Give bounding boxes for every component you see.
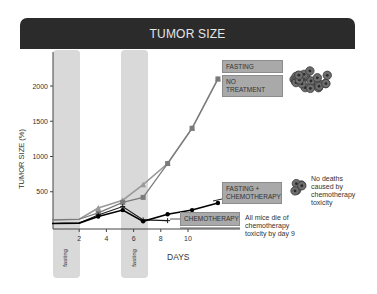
label-no-treatment-line2: TREATMENT <box>226 86 279 94</box>
x-tick-label: 10 <box>184 235 192 242</box>
x-tick-label: 8 <box>159 235 163 242</box>
note-no-deaths: No deaths caused by chemotherapy toxicit… <box>311 175 355 207</box>
note-all-mice-die: All mice die of chemotherapy toxicity by… <box>245 214 295 238</box>
note-all-die-line: toxicity by day 9 <box>245 230 295 238</box>
x-tick-label: 6 <box>132 235 136 242</box>
y-tick-label: 1000 <box>32 153 48 160</box>
note-all-die-line: chemotherapy <box>245 222 295 230</box>
x-axis-label: DAYS <box>167 253 190 261</box>
note-no-deaths-line: chemotherapy <box>311 191 355 199</box>
label-fasting-chemo-line2: CHEMOTHERAPY <box>226 193 278 201</box>
tumor-cells-small-icon <box>291 179 306 195</box>
note-no-deaths-line: toxicity <box>311 199 355 207</box>
x-tick-label: 4 <box>104 235 108 242</box>
label-fasting-chemo-line1: FASTING + <box>226 185 278 193</box>
label-fasting: FASTING <box>222 60 283 73</box>
y-tick-label: 2000 <box>32 83 48 90</box>
note-no-deaths-line: No deaths <box>311 175 355 183</box>
fasting-band-label-1: fasting <box>61 243 69 273</box>
note-all-die-line: All mice die of <box>245 214 295 222</box>
y-tick-label: 1500 <box>32 118 48 125</box>
tumor-cells-large-icon <box>290 67 332 93</box>
data-point <box>141 195 146 200</box>
y-ticks: 500100015002000 <box>32 83 53 196</box>
label-chemotherapy-text: CHEMOTHERAPY <box>184 215 239 222</box>
leader-line-fasting-chemo <box>213 199 222 201</box>
label-chemotherapy: CHEMOTHERAPY <box>180 212 240 226</box>
y-tick-label: 500 <box>36 188 48 195</box>
data-point <box>141 219 145 223</box>
data-point <box>190 126 195 131</box>
fasting-band-label-2: fasting <box>130 243 138 273</box>
note-no-deaths-line: caused by <box>311 183 355 191</box>
data-point <box>165 161 170 166</box>
chart-canvas: 500100015002000 246810 <box>0 0 377 294</box>
label-no-treatment-line1: NO <box>226 78 279 86</box>
label-fasting-chemotherapy: FASTING + CHEMOTHERAPY <box>222 182 282 204</box>
data-point <box>96 214 100 218</box>
data-point <box>215 76 220 81</box>
y-axis-label: TUMOR SIZE (%) <box>18 119 26 199</box>
label-no-treatment: NO TREATMENT <box>222 75 283 97</box>
data-point <box>165 212 169 216</box>
data-point <box>121 208 125 212</box>
x-tick-label: 2 <box>77 235 81 242</box>
data-point <box>216 201 220 205</box>
label-fasting-text: FASTING <box>226 63 254 70</box>
